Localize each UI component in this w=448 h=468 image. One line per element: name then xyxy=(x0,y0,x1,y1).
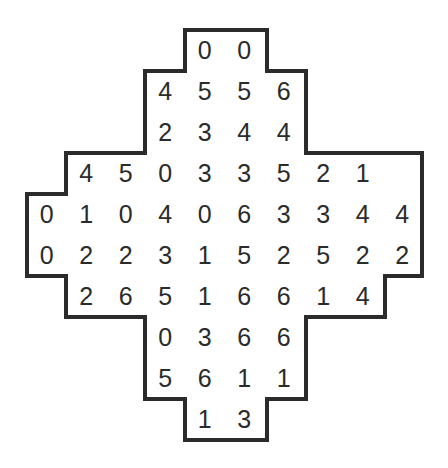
grid-cell-r5-c3[interactable]: 3 xyxy=(146,235,186,276)
grid-cell-r3-c4[interactable]: 3 xyxy=(185,153,225,194)
grid-cell-r5-c5[interactable]: 5 xyxy=(225,235,265,276)
grid-cell-r5-c2[interactable]: 2 xyxy=(106,235,146,276)
grid-cell-r3-c6[interactable]: 5 xyxy=(264,153,304,194)
grid-cell-r7-c5[interactable]: 6 xyxy=(225,317,265,358)
grid-cell-r6-c1[interactable]: 2 xyxy=(67,276,107,317)
grid-cell-r8-c6[interactable]: 1 xyxy=(264,358,304,399)
grid-cell-r5-c0[interactable]: 0 xyxy=(27,235,67,276)
grid-cell-r4-c5[interactable]: 6 xyxy=(225,194,265,235)
number-grid-puzzle: 0045562344450335210104063344022315252226… xyxy=(0,0,448,468)
grid-cell-r1-c5[interactable]: 5 xyxy=(225,71,265,112)
grid-cell-r6-c5[interactable]: 6 xyxy=(225,276,265,317)
grid-cell-r2-c4[interactable]: 3 xyxy=(185,112,225,153)
grid-cell-r7-c6[interactable]: 6 xyxy=(264,317,304,358)
grid-cell-r4-c0[interactable]: 0 xyxy=(27,194,67,235)
grid-cell-r3-c8[interactable]: 1 xyxy=(343,153,383,194)
grid-cell-r3-c5[interactable]: 3 xyxy=(225,153,265,194)
grid-cell-r6-c4[interactable]: 1 xyxy=(185,276,225,317)
grid-cell-r1-c6[interactable]: 6 xyxy=(264,71,304,112)
grid-cell-r2-c6[interactable]: 4 xyxy=(264,112,304,153)
grid-cell-r8-c4[interactable]: 6 xyxy=(185,358,225,399)
grid-cell-r7-c4[interactable]: 3 xyxy=(185,317,225,358)
grid-cell-r4-c1[interactable]: 1 xyxy=(67,194,107,235)
grid-cell-r3-c3[interactable]: 0 xyxy=(146,153,186,194)
grid-cell-r0-c4[interactable]: 0 xyxy=(185,30,225,71)
grid-cell-r4-c4[interactable]: 0 xyxy=(185,194,225,235)
grid-cell-r5-c9[interactable]: 2 xyxy=(383,235,423,276)
grid-cell-r5-c7[interactable]: 5 xyxy=(304,235,344,276)
grid-cell-r4-c6[interactable]: 3 xyxy=(264,194,304,235)
grid-cell-r6-c8[interactable]: 4 xyxy=(343,276,383,317)
grid-cell-r9-c5[interactable]: 3 xyxy=(225,399,265,440)
grid-cell-r4-c2[interactable]: 0 xyxy=(106,194,146,235)
grid-cell-r5-c8[interactable]: 2 xyxy=(343,235,383,276)
grid-cell-r9-c4[interactable]: 1 xyxy=(185,399,225,440)
grid-cell-r6-c7[interactable]: 1 xyxy=(304,276,344,317)
grid-cell-r6-c2[interactable]: 6 xyxy=(106,276,146,317)
grid-cell-r2-c3[interactable]: 2 xyxy=(146,112,186,153)
digit-cell-layer: 0045562344450335210104063344022315252226… xyxy=(0,0,448,468)
grid-cell-r4-c3[interactable]: 4 xyxy=(146,194,186,235)
grid-cell-r0-c5[interactable]: 0 xyxy=(225,30,265,71)
grid-cell-r5-c6[interactable]: 2 xyxy=(264,235,304,276)
grid-cell-r3-c1[interactable]: 4 xyxy=(67,153,107,194)
grid-cell-r1-c4[interactable]: 5 xyxy=(185,71,225,112)
grid-cell-r5-c4[interactable]: 1 xyxy=(185,235,225,276)
grid-cell-r6-c6[interactable]: 6 xyxy=(264,276,304,317)
grid-cell-r4-c8[interactable]: 4 xyxy=(343,194,383,235)
grid-cell-r4-c7[interactable]: 3 xyxy=(304,194,344,235)
grid-cell-r1-c3[interactable]: 4 xyxy=(146,71,186,112)
grid-cell-r8-c3[interactable]: 5 xyxy=(146,358,186,399)
grid-cell-r7-c3[interactable]: 0 xyxy=(146,317,186,358)
grid-cell-r3-c7[interactable]: 2 xyxy=(304,153,344,194)
grid-cell-r4-c9[interactable]: 4 xyxy=(383,194,423,235)
grid-cell-r3-c2[interactable]: 5 xyxy=(106,153,146,194)
grid-cell-r6-c3[interactable]: 5 xyxy=(146,276,186,317)
grid-cell-r8-c5[interactable]: 1 xyxy=(225,358,265,399)
grid-cell-r2-c5[interactable]: 4 xyxy=(225,112,265,153)
grid-cell-r5-c1[interactable]: 2 xyxy=(67,235,107,276)
